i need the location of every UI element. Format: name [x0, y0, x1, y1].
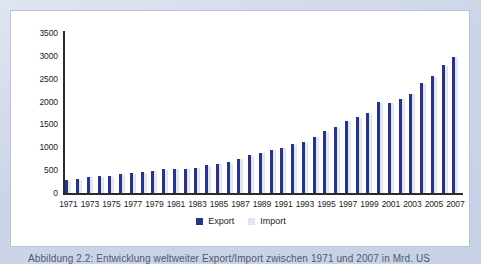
bar-import	[273, 150, 276, 193]
bar-group	[364, 33, 375, 193]
x-axis-tick-cell: 1979	[149, 197, 160, 211]
bar-import	[337, 128, 340, 193]
bar-import	[122, 175, 125, 193]
bar-import	[294, 145, 297, 193]
x-axis-tick-cell: 2007	[450, 197, 461, 211]
x-axis-tick-cell: 2005	[429, 197, 440, 211]
bar-group	[235, 33, 246, 193]
bar-group	[439, 33, 450, 193]
bar-import	[197, 168, 200, 193]
y-axis-tick-label: 0	[53, 189, 58, 198]
x-axis-tick-cell: 1987	[235, 197, 246, 211]
y-axis-tick-label: 1500	[39, 120, 58, 129]
x-axis-tick-cell: 1989	[257, 197, 268, 211]
bar-import	[359, 118, 362, 193]
bar-group	[117, 33, 128, 193]
bar-group	[386, 33, 397, 193]
x-axis-line	[63, 193, 463, 195]
bar-import	[230, 163, 233, 193]
bar-group	[106, 33, 117, 193]
bar-group	[128, 33, 139, 193]
y-axis-tick-label: 2000	[39, 97, 58, 106]
x-axis-tick-cell: 1999	[364, 197, 375, 211]
x-axis-tick-cell: 1977	[128, 197, 139, 211]
bar-import	[101, 177, 104, 193]
figure-page: 0500100015002000250030003500 19711973197…	[0, 0, 481, 264]
legend-label-export: Export	[208, 216, 234, 226]
legend-label-import: Import	[260, 216, 286, 226]
bar-group	[224, 33, 235, 193]
bar-import	[445, 66, 448, 193]
bar-group	[450, 33, 461, 193]
bar-group	[138, 33, 149, 193]
figure-caption: Abbildung 2.2: Entwicklung weltweiter Ex…	[28, 253, 473, 264]
bar-group	[332, 33, 343, 193]
bar-import	[316, 137, 319, 193]
bar-import	[391, 103, 394, 193]
bar-group	[246, 33, 257, 193]
bar-group	[343, 33, 354, 193]
bar-group	[171, 33, 182, 193]
y-axis-tick-label: 2500	[39, 74, 58, 83]
bar-group	[310, 33, 321, 193]
bar-import	[176, 169, 179, 193]
x-axis-tick-cell: 1971	[63, 197, 74, 211]
x-axis-tick-label: 2007	[446, 199, 464, 209]
bar-group	[257, 33, 268, 193]
bar-group	[278, 33, 289, 193]
bar-group	[418, 33, 429, 193]
bar-import	[455, 57, 458, 193]
bar-group	[203, 33, 214, 193]
bar-group	[300, 33, 311, 193]
y-axis-tick-label: 3500	[39, 29, 58, 38]
chart-legend: Export Import	[11, 216, 471, 226]
bar-import	[154, 171, 157, 193]
bar-group	[429, 33, 440, 193]
bar-import	[262, 153, 265, 193]
x-axis-tick-cell: 1973	[85, 197, 96, 211]
plot-area: 0500100015002000250030003500	[63, 33, 461, 193]
bar-import	[68, 181, 71, 193]
legend-swatch-export-icon	[196, 218, 203, 225]
bar-import	[326, 132, 329, 193]
bar-import	[348, 121, 351, 193]
bar-import	[434, 77, 437, 193]
bar-import	[283, 148, 286, 193]
x-axis-tick-cell: 1981	[171, 197, 182, 211]
x-axis-tick-cell: 1993	[300, 197, 311, 211]
bar-import	[305, 143, 308, 194]
bar-import	[144, 173, 147, 193]
chart-panel: 0500100015002000250030003500 19711973197…	[10, 10, 470, 247]
x-axis-tick-cell: 1997	[343, 197, 354, 211]
bar-group	[375, 33, 386, 193]
x-axis-tick-cell: 1985	[214, 197, 225, 211]
bar-import	[187, 169, 190, 193]
bar-series-container	[63, 33, 461, 193]
x-axis-tick-cell: 1995	[321, 197, 332, 211]
bar-group	[267, 33, 278, 193]
bar-group	[289, 33, 300, 193]
bar-group	[214, 33, 225, 193]
bar-group	[95, 33, 106, 193]
bar-group	[74, 33, 85, 193]
bar-group	[192, 33, 203, 193]
bar-group	[407, 33, 418, 193]
bar-import	[369, 114, 372, 193]
bar-import	[165, 170, 168, 193]
bar-group	[149, 33, 160, 193]
y-axis-tick-label: 500	[44, 166, 58, 175]
legend-item-export: Export	[196, 216, 234, 226]
bar-import	[111, 177, 114, 193]
y-axis-tick-label: 1000	[39, 143, 58, 152]
x-axis-tick-cell: 1983	[192, 197, 203, 211]
legend-item-import: Import	[248, 216, 286, 226]
x-axis-ticks: 1971197319751977197919811983198519871989…	[63, 197, 461, 211]
bar-import	[251, 156, 254, 193]
bar-import	[219, 164, 222, 193]
bar-import	[402, 99, 405, 193]
legend-swatch-import-icon	[248, 218, 255, 225]
bar-group	[181, 33, 192, 193]
x-axis-tick-cell: 1975	[106, 197, 117, 211]
bar-import	[423, 84, 426, 193]
bar-import	[240, 159, 243, 193]
